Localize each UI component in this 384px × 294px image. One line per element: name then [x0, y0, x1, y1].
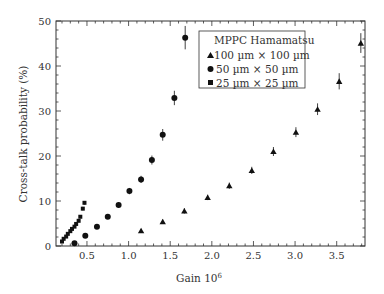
- triangle-data-point: [358, 40, 364, 46]
- circle-data-point: [160, 132, 166, 138]
- legend: MPPC Hamamatsu 100 µm × 100 µm 50 µm × 5…: [199, 31, 315, 89]
- y-tick-label: 30: [38, 106, 51, 117]
- square-data-point: [77, 219, 81, 223]
- x-tick-label: 2.5: [246, 250, 262, 261]
- square-marker-icon: [208, 80, 213, 85]
- legend-item-50um: 50 µm × 50 µm: [216, 63, 298, 75]
- triangle-data-point: [226, 183, 232, 189]
- x-tick-label: 3.0: [287, 250, 303, 261]
- legend-item-25um: 25 µm × 25 µm: [216, 77, 298, 89]
- y-tick-label: 40: [38, 61, 51, 72]
- square-data-point: [81, 207, 85, 211]
- triangle-data-point: [138, 228, 144, 234]
- y-tick-label: 50: [38, 16, 51, 27]
- series-circle: [71, 26, 188, 246]
- y-tick-label: 0: [45, 241, 51, 252]
- legend-item-100um: 100 µm × 100 µm: [214, 49, 310, 61]
- x-tick-label: 2.0: [204, 250, 220, 261]
- circle-marker-icon: [208, 66, 214, 72]
- circle-data-point: [126, 188, 132, 194]
- x-tick-label: 0.5: [79, 250, 95, 261]
- triangle-data-point: [160, 219, 166, 225]
- triangle-data-point: [336, 78, 342, 84]
- scatter-plot: 0.51.01.52.02.53.03.501020304050 Gain 10…: [0, 0, 384, 294]
- chart-container: 0.51.01.52.02.53.03.501020304050 Gain 10…: [0, 0, 384, 294]
- circle-data-point: [71, 240, 77, 246]
- x-axis-label: Gain 106: [176, 272, 222, 284]
- triangle-data-point: [314, 106, 320, 112]
- x-tick-label: 1.5: [162, 250, 178, 261]
- series-square: [60, 201, 86, 244]
- triangle-data-point: [249, 167, 255, 173]
- circle-data-point: [138, 176, 144, 182]
- circle-data-point: [182, 35, 188, 41]
- x-tick-label: 1.0: [121, 250, 137, 261]
- square-data-point: [82, 201, 86, 205]
- circle-data-point: [116, 202, 122, 208]
- circle-data-point: [149, 157, 155, 163]
- triangle-data-point: [181, 208, 187, 214]
- square-data-point: [78, 215, 82, 219]
- triangle-data-point: [204, 194, 210, 200]
- triangle-data-point: [270, 149, 276, 155]
- circle-data-point: [171, 95, 177, 101]
- legend-title: MPPC Hamamatsu: [214, 34, 315, 46]
- y-axis-label: Cross-talk probability (%): [17, 66, 29, 203]
- y-tick-label: 10: [38, 196, 51, 207]
- circle-data-point: [105, 214, 111, 220]
- y-tick-label: 20: [38, 151, 51, 162]
- circle-data-point: [94, 224, 100, 230]
- x-tick-label: 3.5: [329, 250, 345, 261]
- triangle-data-point: [293, 129, 299, 135]
- circle-data-point: [82, 233, 88, 239]
